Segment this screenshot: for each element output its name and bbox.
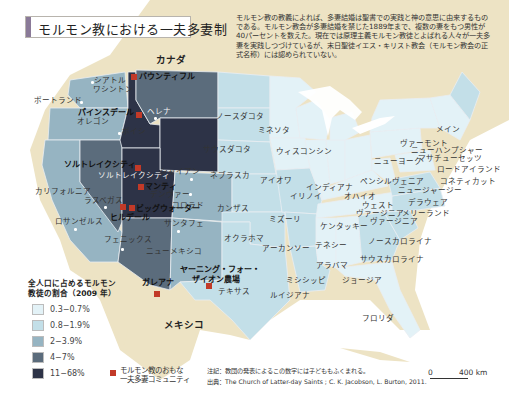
city-label-santa-fe: サンタフェ: [164, 220, 204, 228]
legend-title-line1: 全人口に占めるモルモン: [28, 279, 116, 289]
community-legend-line1: モルモン教のおもな: [120, 366, 190, 375]
state-label-maine: メイン: [436, 126, 460, 134]
state-north-dakota: [218, 72, 270, 108]
legend-item: 4−7%: [28, 352, 116, 368]
state-label-new-york: ニューヨーク: [374, 158, 422, 166]
city-label-seattle: シアトル: [94, 77, 126, 85]
title-accent-bar: [26, 17, 31, 37]
note-text: 注記：教団の発表によるこの数字には子どももふくまれる。: [207, 365, 427, 376]
community-legend-text: モルモン教のおもな 一夫多妻コミュニティ: [120, 366, 190, 384]
state-label-delaware: デラウェア: [408, 199, 448, 207]
city-dot-helena: [154, 117, 157, 120]
state-label-california: カリフォルニア: [35, 188, 91, 196]
scale-line: [430, 378, 468, 379]
city-dot-los-angeles: [74, 228, 77, 231]
community-label-yearning-1: ヤーニング・フォー・: [180, 266, 260, 274]
community-label-pinesdale: パインスデール: [78, 109, 134, 117]
state-label-massachusetts: マサチューセッツ: [418, 155, 482, 163]
state-label-alabama: アラバマ: [316, 262, 348, 270]
community-marker-legend-icon: [110, 370, 116, 376]
state-label-maryland: メリーランド: [402, 210, 450, 218]
state-label-illinois: イリノイ: [290, 193, 322, 201]
notes: 注記：教団の発表によるこの数字には子どももふくまれる。 出典：The Churc…: [207, 365, 427, 387]
state-label-vermont: ヴァーモント: [400, 140, 448, 148]
community-marker-manti: [138, 184, 144, 190]
state-label-ohio: オハイオ: [344, 193, 376, 201]
legend-swatch-1: [32, 304, 44, 315]
city-label-cheyenne: シャイアン: [160, 168, 200, 176]
state-label-nebraska: ネブラスカ: [210, 172, 250, 180]
community-label-yearning-2: ザイオン農場: [192, 276, 240, 284]
legend-item: 11−68%: [28, 368, 116, 384]
state-label-georgia: ジョージア: [342, 277, 382, 285]
community-marker-galeana: [154, 291, 160, 297]
source-text: 出典：The Church of Latter-day Saints ; C. …: [207, 376, 427, 387]
legend-swatch-2: [32, 320, 44, 331]
city-label-phoenix: フェニックス: [104, 236, 152, 244]
city-dot-phoenix: [121, 248, 124, 251]
community-label-salt-lake-city: ソルトレイクシティ: [64, 161, 136, 169]
state-label-kentucky: ケンタッキー: [320, 223, 368, 231]
state-label-west-virginia-2: ヴァージニア: [356, 210, 404, 218]
state-label-tennessee: テネシー: [315, 242, 347, 250]
community-label-hildale: ヒルデール: [110, 214, 150, 222]
state-label-louisiana: ルイジアナ: [270, 292, 310, 300]
state-label-virginia: ヴァージニア: [370, 218, 418, 226]
city-label-denver: デンヴァー: [150, 191, 190, 199]
city-label-las-vegas: ラスベガス: [84, 197, 123, 205]
state-label-kansas: カンザス: [217, 205, 249, 213]
legend-label: 0.8−1.9%: [50, 321, 90, 330]
city-dot-cheyenne: [190, 178, 193, 181]
intro-paragraph: モルモン教の教義によれば、多妻結婚は聖書での実践と神の意思に由来するものである。…: [236, 13, 494, 59]
community-legend-line2: 一夫多妻コミュニティ: [120, 375, 190, 384]
community-marker-bountiful: [131, 74, 137, 80]
state-label-texas: テキサス: [218, 288, 250, 296]
state-label-rhode-island: ロードアイランド: [437, 166, 501, 174]
state-label-south-carolina: サウスカロライナ: [360, 256, 424, 264]
city-label-portland: ポートランド: [34, 97, 82, 105]
country-label-canada: カナダ: [156, 55, 186, 65]
city-label-boise: ボイシ: [122, 128, 146, 136]
state-new-york: [370, 98, 440, 132]
state-label-indiana: インディアナ: [306, 184, 353, 192]
state-label-wisconsin: ウィスコンシン: [276, 148, 332, 156]
city-dot-las-vegas: [104, 206, 107, 209]
state-label-washington: ワシントン: [93, 86, 133, 94]
city-dot-boise: [118, 132, 121, 135]
state-label-connecticut: コネティカット: [440, 178, 496, 186]
state-label-south-dakota: サウスダコタ: [203, 146, 251, 154]
community-label-bountiful: バウンティフル: [139, 73, 195, 81]
community-label-galeana: ガレアナ: [142, 279, 174, 287]
legend-item: 0.8−1.9%: [28, 320, 116, 336]
legend-swatch-5: [32, 368, 44, 379]
community-marker-pinesdale: [136, 112, 142, 118]
legend-label: 2−3.9%: [50, 337, 82, 346]
map-title-box: モルモン教における一夫多妻制: [25, 16, 191, 38]
legend-swatch-4: [32, 352, 44, 363]
state-label-new-hampshire: ニューハンプシャー: [411, 147, 483, 155]
community-marker-big-water: [129, 205, 135, 211]
cuba: [340, 348, 410, 362]
legend: 全人口に占めるモルモン 教徒の割合（2009 年） 0.3−0.7% 0.8−1…: [28, 279, 116, 384]
city-dot-santa-fe: [177, 230, 180, 233]
state-label-colorado: コロラド: [172, 202, 204, 210]
map-title: モルモン教における一夫多妻制: [38, 19, 227, 38]
city-label-los-angeles: ロサンゼルス: [55, 218, 103, 226]
state-label-pennsylvania: ペンシルヴェニア: [360, 178, 424, 186]
state-label-florida: フロリダ: [362, 315, 394, 323]
state-label-north-carolina: ノースカロライナ: [368, 238, 432, 246]
state-label-new-mexico: ニューメキシコ: [146, 248, 202, 256]
legend-item: 2−3.9%: [28, 336, 116, 352]
legend-label: 4−7%: [50, 353, 74, 362]
city-label-helena: ヘレナ: [147, 108, 171, 116]
state-label-oregon: オレゴン: [77, 118, 109, 126]
legend-swatch-3: [32, 336, 44, 347]
state-label-mississippi: ミシシッピ: [286, 277, 326, 285]
legend-label: 0.3−0.7%: [50, 305, 90, 314]
legend-item: 0.3−0.7%: [28, 304, 116, 320]
scale-zero-label: 0: [428, 368, 433, 377]
country-label-mexico: メキシコ: [164, 320, 204, 330]
state-label-minnesota: ミネソタ: [258, 127, 290, 135]
state-label-missouri: ミズーリ: [269, 216, 301, 224]
legend-label: 11−68%: [50, 369, 85, 378]
